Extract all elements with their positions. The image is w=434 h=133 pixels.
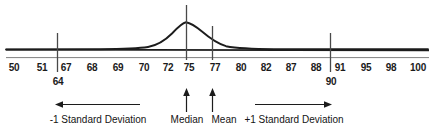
- axis-tick-label: 50: [9, 62, 20, 73]
- plus-one-sd-label: +1 Standard Deviation: [244, 114, 343, 126]
- axis-tick-label: 95: [361, 62, 372, 73]
- axis-tick-label: 77: [210, 62, 221, 73]
- median-up-arrow-icon: [183, 88, 190, 112]
- axis-tick-label: 88: [311, 62, 322, 73]
- plus-one-sd-arrow-icon: [255, 101, 332, 107]
- mean-up-arrow-icon: [209, 88, 216, 112]
- distribution-curve: [6, 22, 428, 49]
- axis-tick-label: 70: [139, 62, 150, 73]
- minus-one-sd-label: -1 Standard Deviation: [50, 114, 147, 126]
- axis-tick-label: 51: [37, 62, 48, 73]
- distribution-chart: 50 51 67 68 69 70 72 75 77 80 82 87 88 9…: [0, 0, 434, 133]
- minus-one-sd-arrow-icon: [55, 101, 140, 107]
- axis-tick-label: 98: [386, 62, 397, 73]
- axis-tick-label: 100: [410, 62, 426, 73]
- mean-label: Mean: [211, 114, 236, 126]
- axis-tick-label: 75: [184, 62, 195, 73]
- axis-tick-label: 69: [113, 62, 124, 73]
- axis-tick-label: 87: [286, 62, 297, 73]
- axis-tick-label: 67: [61, 62, 72, 73]
- median-label: Median: [171, 114, 204, 126]
- axis-tick-label: 80: [236, 62, 247, 73]
- axis-tick-label: 82: [261, 62, 272, 73]
- axis-line-primary: [6, 50, 429, 51]
- axis-tick-label: 72: [163, 62, 174, 73]
- axis-sub-label-90: 90: [326, 76, 337, 87]
- axis-tick-label: 68: [87, 62, 98, 73]
- axis-sub-label-64: 64: [53, 76, 64, 87]
- axis-tick-label: 91: [335, 62, 346, 73]
